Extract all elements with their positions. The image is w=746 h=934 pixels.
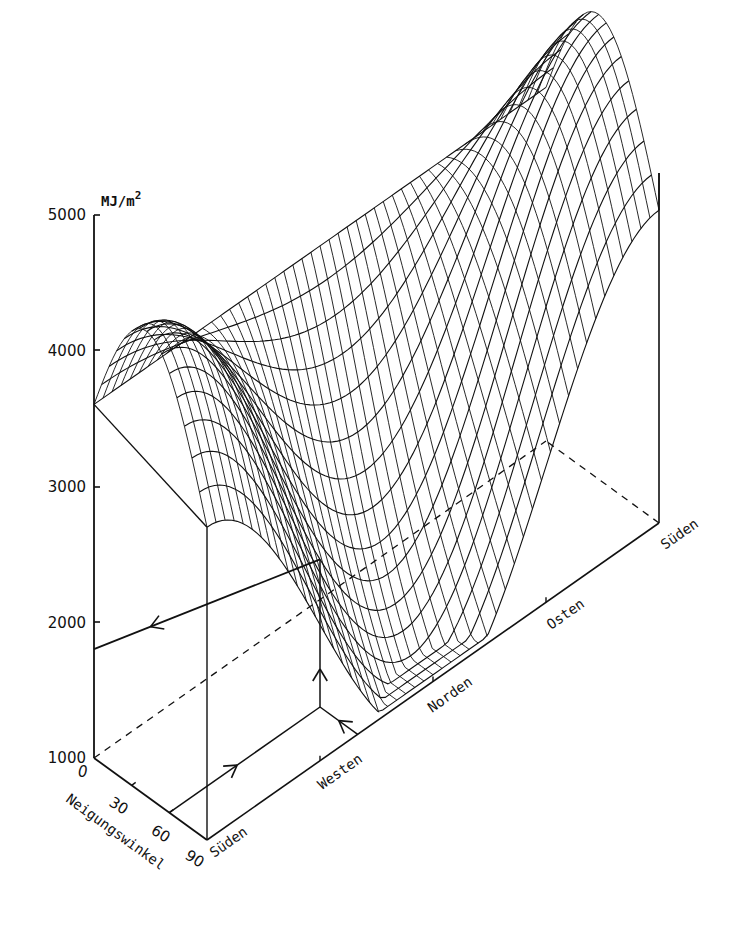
tilt-tick-30: 30 bbox=[106, 793, 132, 818]
z-tick-5000: 5000 bbox=[48, 206, 86, 224]
azimuth-label-sueden-back: Süden bbox=[658, 515, 702, 552]
reading-example-path bbox=[94, 559, 358, 812]
z-tick-4000: 4000 bbox=[48, 342, 86, 360]
azimuth-label-norden: Norden bbox=[425, 673, 476, 715]
azimuth-label-osten: Osten bbox=[544, 595, 588, 632]
chart-canvas: MJ/m2 5000 4000 3000 2000 1000 0 30 60 9… bbox=[0, 0, 746, 934]
z-axis-unit: MJ/m2 bbox=[101, 189, 141, 209]
z-tick-3000: 3000 bbox=[48, 478, 86, 496]
surface-chart: MJ/m2 5000 4000 3000 2000 1000 0 30 60 9… bbox=[0, 0, 746, 934]
azimuth-label-sueden-front: Süden bbox=[207, 823, 251, 860]
tilt-tick-60: 60 bbox=[148, 821, 174, 846]
tilt-tick-0: 0 bbox=[78, 763, 88, 781]
z-tick-2000: 2000 bbox=[48, 614, 86, 632]
axis-labels: MJ/m2 5000 4000 3000 2000 1000 0 30 60 9… bbox=[48, 189, 701, 873]
azimuth-label-westen: Westen bbox=[315, 750, 366, 792]
tilt-tick-90: 90 bbox=[182, 846, 208, 871]
